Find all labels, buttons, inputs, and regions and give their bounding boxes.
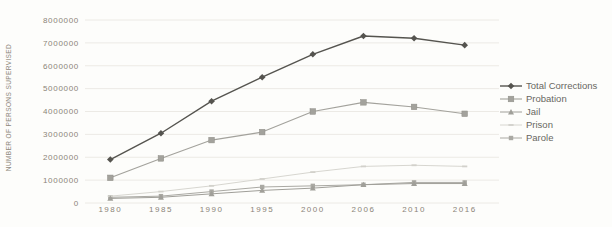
x-tick-label: 1990 — [200, 205, 224, 214]
legend-label: Total Corrections — [526, 80, 598, 91]
legend-item-prison: Prison — [500, 119, 553, 130]
square-marker — [158, 156, 164, 162]
series-line — [110, 102, 464, 177]
y-tick-label: 6000000 — [43, 62, 79, 71]
y-tick-label: 1000000 — [43, 176, 79, 185]
legend-label: Parole — [526, 132, 553, 143]
diamond-marker — [259, 74, 266, 81]
series-line — [110, 36, 464, 160]
legend-label: Probation — [526, 93, 567, 104]
diamond-marker — [208, 98, 215, 105]
square-marker — [310, 109, 316, 115]
x-tick-label: 2016 — [453, 205, 477, 214]
legend-item-parole: Parole — [500, 132, 553, 143]
legend-item-jail: Jail — [500, 106, 540, 117]
y-tick-label: 7000000 — [43, 39, 79, 48]
legend-item-probation: Probation — [500, 93, 567, 104]
x-tick-label: 1980 — [98, 205, 122, 214]
x-tick-label: 1995 — [250, 205, 274, 214]
legend-label: Jail — [526, 106, 540, 117]
series-line — [110, 182, 464, 197]
x-tick-label: 2000 — [301, 205, 325, 214]
diamond-marker — [411, 35, 418, 42]
diamond-marker — [310, 51, 317, 58]
square-marker — [361, 100, 367, 106]
x-axis-tick-labels: 19801985199019952000200620102016 — [98, 205, 476, 214]
x-tick-label: 2006 — [352, 205, 376, 214]
y-tick-label: 2000000 — [43, 153, 79, 162]
diamond-marker — [508, 83, 515, 90]
y-tick-label: 3000000 — [43, 130, 79, 139]
diamond-marker — [360, 33, 367, 40]
square-marker — [108, 175, 114, 181]
x-tick-label: 1985 — [149, 205, 173, 214]
y-tick-label: 4000000 — [43, 107, 79, 116]
legend: Total CorrectionsProbationJailPrisonParo… — [500, 80, 598, 143]
square-marker — [508, 96, 514, 102]
square-marker — [411, 104, 417, 110]
square-marker — [209, 137, 215, 143]
square-marker — [462, 111, 468, 117]
x-tick-label: 2010 — [402, 205, 426, 214]
series-total-corrections — [107, 33, 468, 163]
legend-label: Prison — [526, 119, 553, 130]
y-tick-label: 0 — [74, 199, 79, 208]
y-tick-label: 5000000 — [43, 84, 79, 93]
gridlines — [85, 20, 499, 203]
legend-item-total-corrections: Total Corrections — [500, 80, 598, 91]
y-axis-tick-labels: 0100000020000003000000400000050000006000… — [43, 16, 79, 208]
square-marker — [259, 129, 265, 135]
diamond-marker — [158, 130, 165, 137]
line-chart: 0100000020000003000000400000050000006000… — [0, 0, 612, 227]
y-tick-label: 8000000 — [43, 16, 79, 25]
correctional-populations-chart-figure: NUMBER OF PERSONS SUPERVISED 01000000200… — [0, 0, 612, 227]
square-small-marker — [509, 136, 513, 140]
